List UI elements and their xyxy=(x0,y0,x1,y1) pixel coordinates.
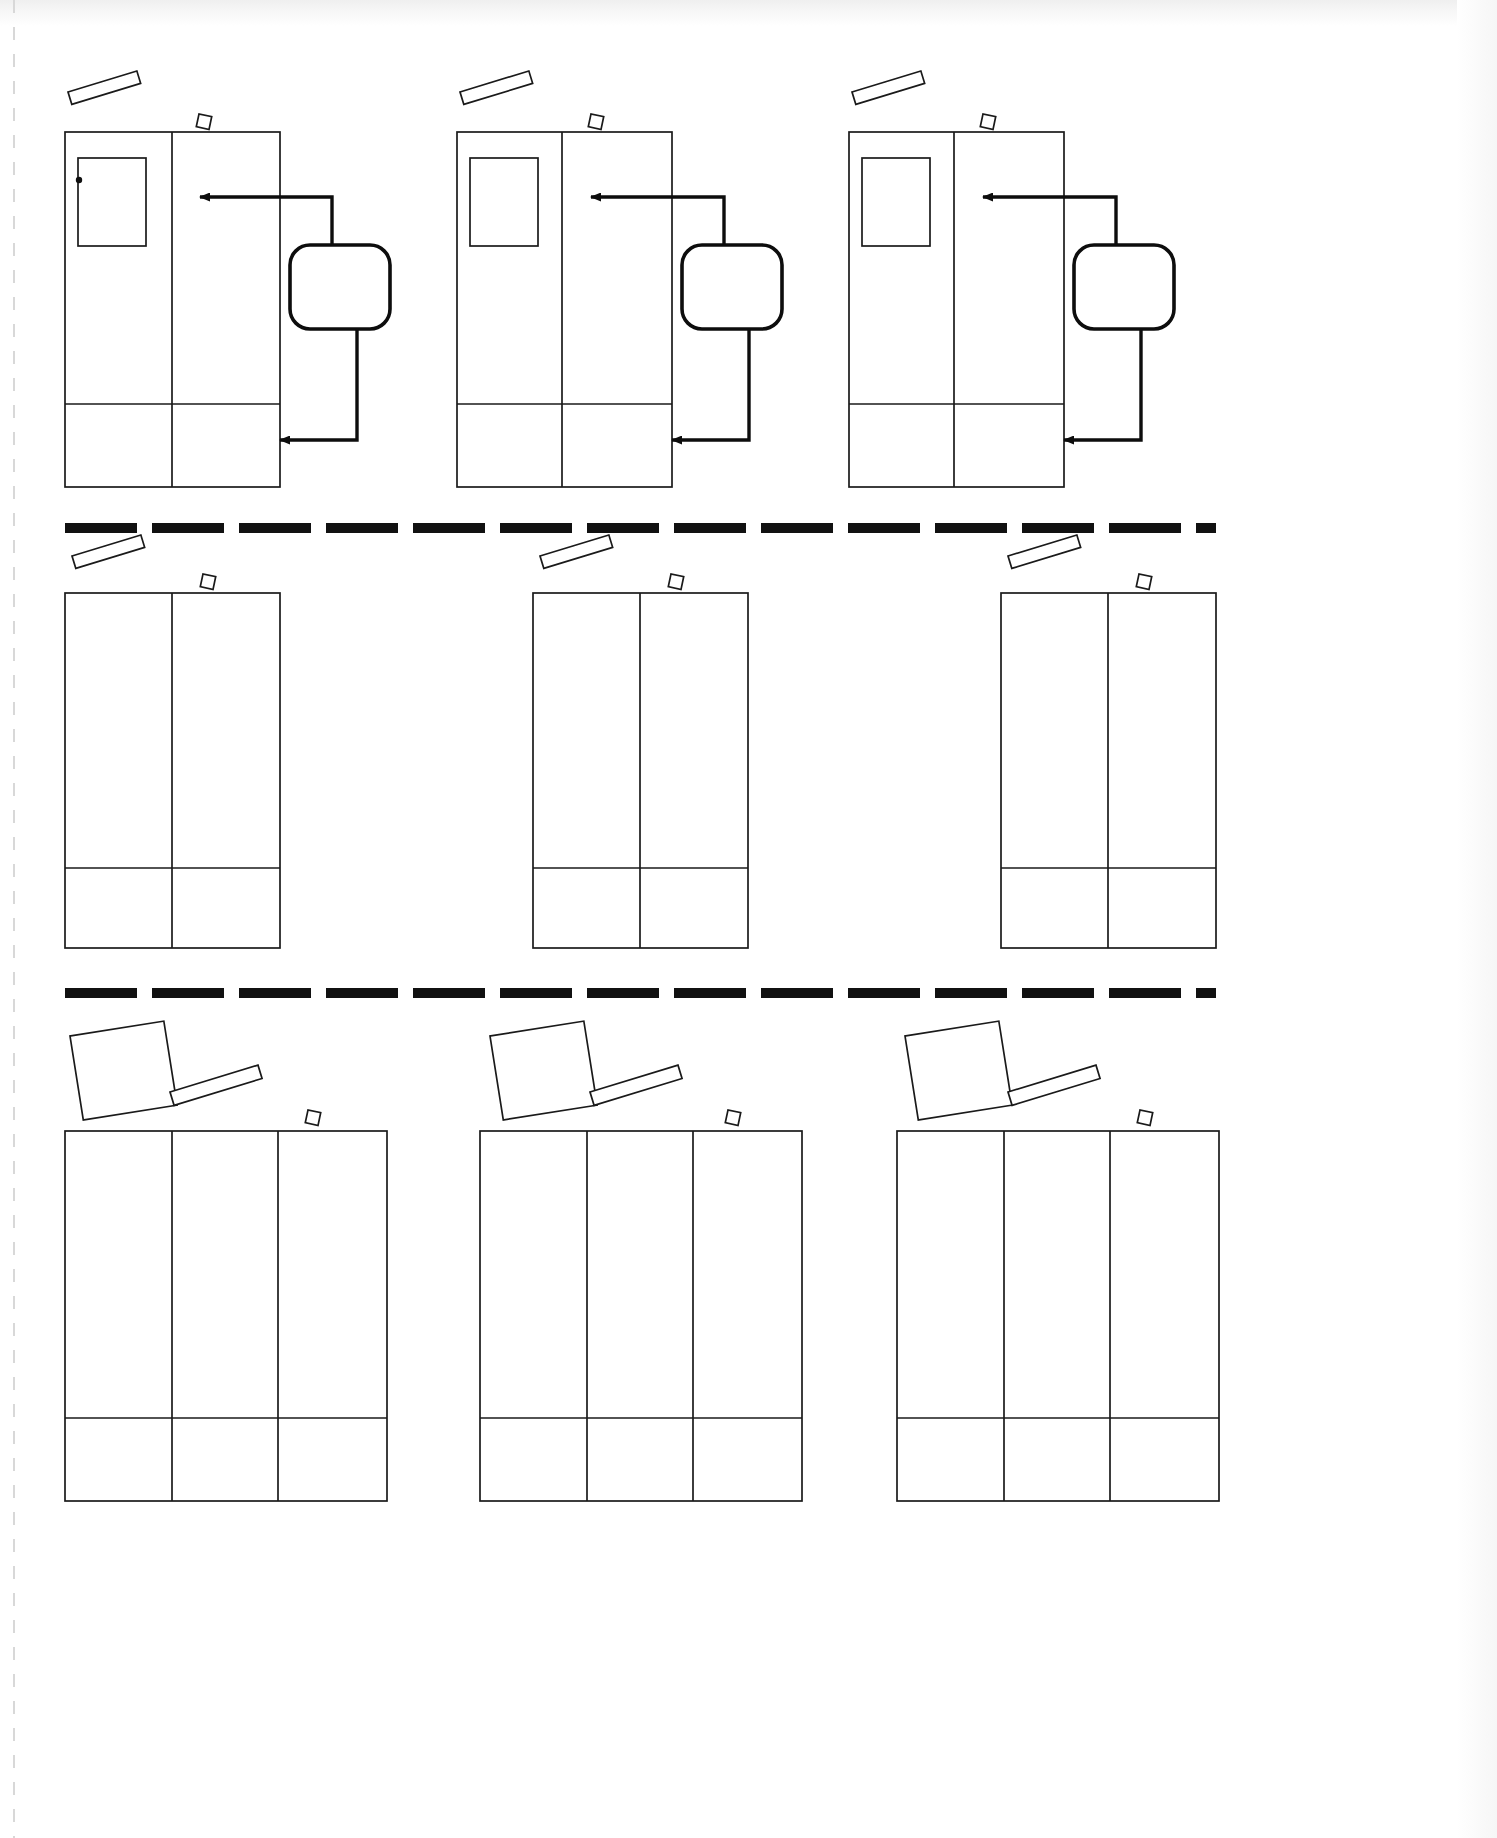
inner-content-box[interactable] xyxy=(78,158,146,246)
rounded-callout-shape[interactable] xyxy=(290,245,390,329)
tilted-card-icon xyxy=(490,1021,597,1120)
pen-icon xyxy=(852,71,925,104)
inner-content-box[interactable] xyxy=(862,158,930,246)
inner-content-box[interactable] xyxy=(470,158,538,246)
row1-panel-1[interactable] xyxy=(65,71,390,487)
anchor-dot-icon xyxy=(76,177,82,183)
pen-icon xyxy=(460,71,533,104)
chip-square-icon xyxy=(305,1110,320,1125)
row1-panel-3[interactable] xyxy=(849,71,1174,487)
rounded-callout-shape[interactable] xyxy=(1074,245,1174,329)
pen-icon xyxy=(170,1065,262,1105)
pen-icon xyxy=(540,535,613,568)
worksheet-vector-layer xyxy=(0,0,1497,1838)
chip-square-icon xyxy=(668,574,683,589)
row2-panel-1[interactable] xyxy=(65,535,280,948)
pen-icon xyxy=(1008,1065,1100,1105)
separator-row-2 xyxy=(65,988,1216,998)
tilted-card-icon xyxy=(905,1021,1012,1120)
arrow-pointer-icon-bottom xyxy=(672,329,749,440)
chip-square-icon xyxy=(1136,574,1151,589)
pen-icon xyxy=(72,535,145,568)
tilted-card-icon xyxy=(70,1021,177,1120)
row3-panel-3[interactable] xyxy=(897,1021,1219,1501)
chip-square-icon xyxy=(725,1110,740,1125)
row-1-group xyxy=(65,71,1174,487)
worksheet-page xyxy=(0,0,1497,1838)
row2-panel-3[interactable] xyxy=(1001,535,1216,948)
row-2-group xyxy=(65,535,1216,948)
chip-square-icon xyxy=(1137,1110,1152,1125)
row1-panel-2[interactable] xyxy=(457,71,782,487)
arrow-pointer-icon-bottom xyxy=(280,329,357,440)
pen-icon xyxy=(68,71,141,104)
arrow-pointer-icon-bottom xyxy=(1064,329,1141,440)
chip-square-icon xyxy=(980,114,995,129)
row-3-group xyxy=(65,1021,1219,1501)
row2-panel-2[interactable] xyxy=(533,535,748,948)
pen-icon xyxy=(590,1065,682,1105)
rounded-callout-shape[interactable] xyxy=(682,245,782,329)
pen-icon xyxy=(1008,535,1081,568)
row3-panel-2[interactable] xyxy=(480,1021,802,1501)
separator-row-1 xyxy=(65,523,1216,533)
row3-panel-1[interactable] xyxy=(65,1021,387,1501)
chip-square-icon xyxy=(200,574,215,589)
chip-square-icon xyxy=(588,114,603,129)
chip-square-icon xyxy=(196,114,211,129)
